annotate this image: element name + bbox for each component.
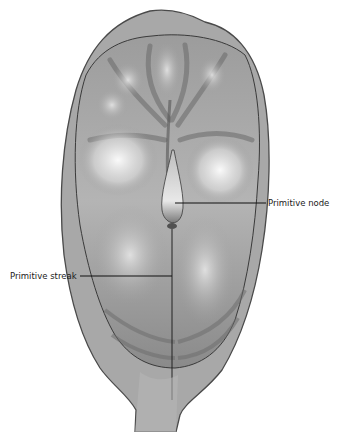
right-bulge — [186, 136, 254, 204]
fold-highlight — [153, 42, 181, 98]
lower-right-bulge — [175, 215, 235, 325]
fold-highlight — [96, 89, 128, 121]
embryo-illustration — [0, 0, 339, 432]
label-primitive-node: Primitive node — [268, 198, 329, 208]
node-pit — [167, 223, 177, 229]
stalk — [135, 372, 178, 432]
fold-highlight — [198, 57, 226, 93]
lower-left-bulge — [92, 205, 168, 305]
left-bulge — [78, 124, 158, 196]
label-primitive-streak: Primitive streak — [10, 271, 77, 281]
